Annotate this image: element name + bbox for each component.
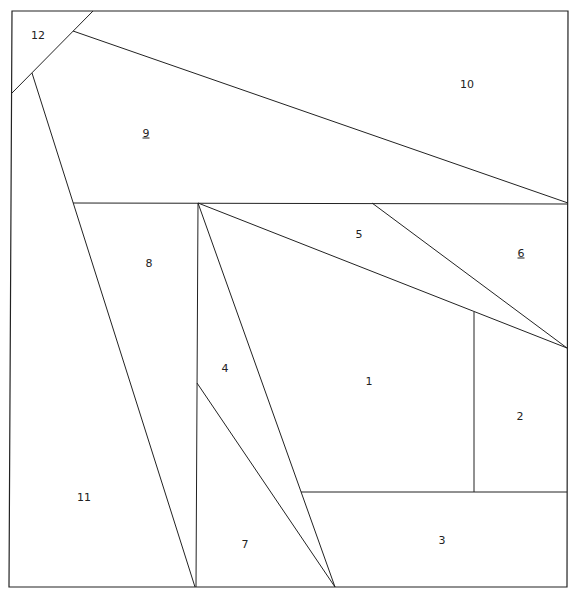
piece-label-5: 5 [356,228,363,241]
piece-label-8: 8 [146,257,153,270]
seam-line [197,383,335,587]
piece-label-7: 7 [242,538,249,551]
seam-line [12,11,93,93]
outer-border [9,11,568,587]
piece-label-6: 6 [518,247,525,260]
seam-line [73,31,568,203]
piece-label-12: 12 [31,29,45,42]
seam-line [198,203,567,348]
seam-line [196,203,198,587]
seam-lines [12,11,568,587]
seam-line [198,203,335,587]
piece-label-3: 3 [439,534,446,547]
piece-label-11: 11 [77,491,91,504]
piece-label-1: 1 [366,375,373,388]
seam-line [32,73,195,587]
seam-line [73,203,568,204]
piece-label-2: 2 [517,410,524,423]
seam-line [372,203,567,348]
piece-label-4: 4 [222,362,229,375]
piece-label-10: 10 [460,78,474,91]
pattern-diagram [0,0,574,594]
piece-label-9: 9 [143,127,150,140]
